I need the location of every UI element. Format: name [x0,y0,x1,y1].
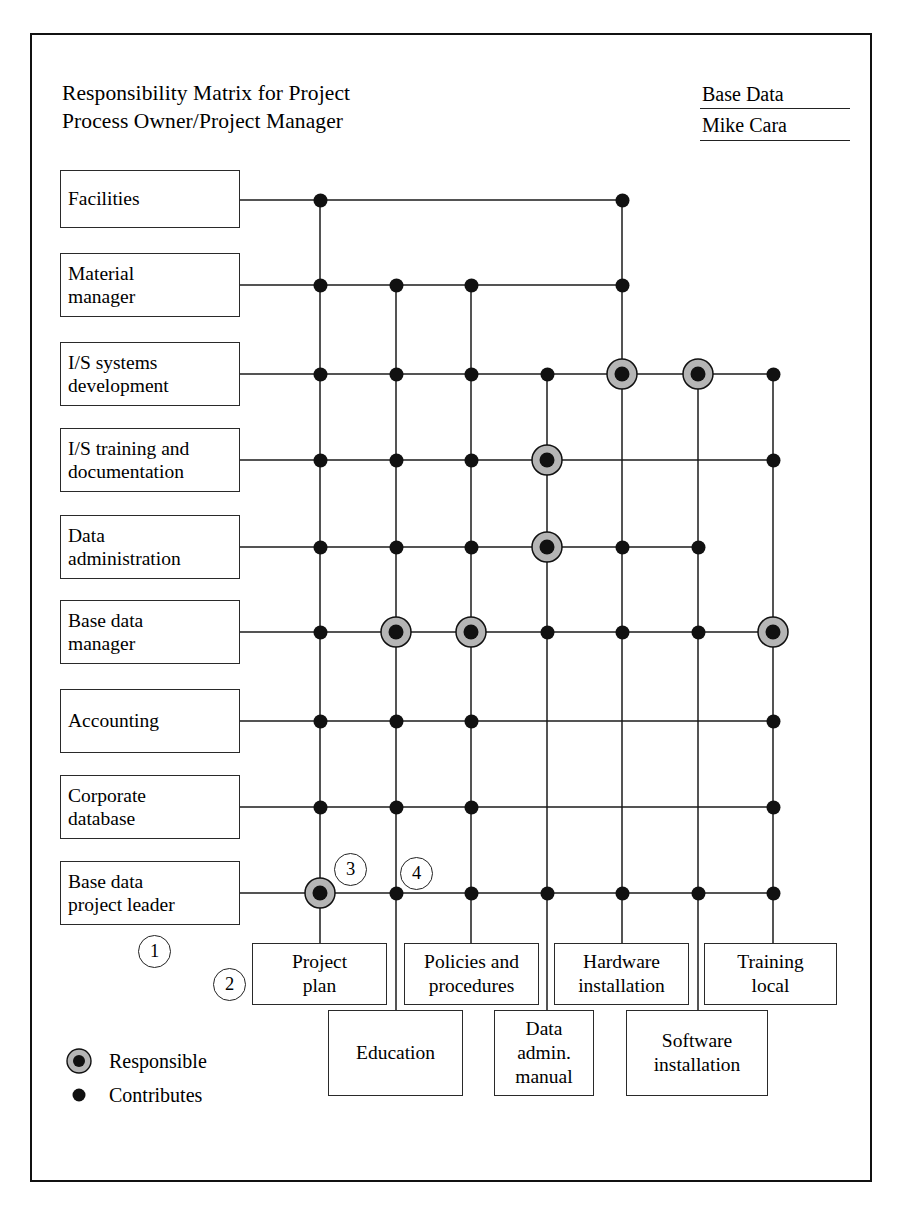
column-label-box[interactable]: Policies andprocedures [404,943,539,1005]
contributes-marker[interactable] [765,452,782,469]
title-line-2: Process Owner/Project Manager [62,108,492,136]
contributes-marker[interactable] [388,885,405,902]
contributes-marker[interactable] [690,539,707,556]
responsible-marker[interactable] [303,876,337,910]
title-line-1: Responsibility Matrix for Project [62,80,492,108]
diagram-canvas: Responsibility Matrix for Project Proces… [0,0,900,1213]
contributes-marker[interactable] [312,713,329,730]
row-label-box[interactable]: Base dataproject leader [60,861,240,925]
contributes-marker[interactable] [765,366,782,383]
row-label-text: Base datamanager [68,609,143,656]
column-label-text: Softwareinstallation [654,1029,741,1077]
row-label-box[interactable]: I/S systemsdevelopment [60,342,240,406]
contributes-marker[interactable] [463,539,480,556]
contributes-marker[interactable] [614,539,631,556]
contributes-marker[interactable] [388,539,405,556]
contributes-marker[interactable] [463,885,480,902]
contributes-marker[interactable] [312,192,329,209]
callout-number: 1 [150,941,159,962]
row-label-text: Base dataproject leader [68,870,175,917]
responsible-marker[interactable] [605,357,639,391]
contributes-marker[interactable] [388,452,405,469]
contributes-marker[interactable] [614,192,631,209]
header-field-value: Mike Cara [700,113,850,140]
contributes-marker[interactable] [312,366,329,383]
contributes-marker[interactable] [312,277,329,294]
contributes-marker[interactable] [312,452,329,469]
row-label-box[interactable]: Corporatedatabase [60,775,240,839]
contributes-marker[interactable] [388,799,405,816]
header-field-label: Base Data [700,82,850,109]
column-label-box[interactable]: Education [328,1010,463,1096]
contributes-marker[interactable] [312,624,329,641]
callout-number: 4 [412,863,421,884]
contributes-marker[interactable] [463,713,480,730]
row-label-text: Facilities [68,187,140,210]
contributes-marker[interactable] [614,885,631,902]
column-label-box[interactable]: Projectplan [252,943,387,1005]
responsible-marker[interactable] [681,357,715,391]
row-label-text: I/S training anddocumentation [68,437,189,484]
row-label-text: Accounting [68,709,159,732]
column-label-box[interactable]: Hardwareinstallation [554,943,689,1005]
contributes-marker[interactable] [463,277,480,294]
column-label-text: Hardwareinstallation [578,950,665,998]
responsible-icon [62,1046,96,1076]
column-label-text: Dataadmin.manual [515,1017,572,1088]
page-title: Responsibility Matrix for Project Proces… [62,80,492,135]
column-label-text: Projectplan [292,950,347,998]
column-label-text: Education [356,1041,435,1065]
contributes-marker[interactable] [388,366,405,383]
legend-label-contributes: Contributes [109,1084,202,1107]
contributes-marker[interactable] [614,277,631,294]
contributes-marker[interactable] [388,713,405,730]
row-label-box[interactable]: I/S training anddocumentation [60,428,240,492]
contributes-marker[interactable] [539,624,556,641]
row-label-text: Dataadministration [68,524,181,571]
callout-marker[interactable]: 1 [138,935,171,968]
contributes-marker[interactable] [463,366,480,383]
callout-marker[interactable]: 3 [334,853,367,886]
contributes-marker[interactable] [539,366,556,383]
header-fields: Base Data Mike Cara [700,82,850,145]
column-label-text: Traininglocal [737,950,803,998]
responsible-marker[interactable] [454,615,488,649]
responsible-marker[interactable] [379,615,413,649]
contributes-marker[interactable] [312,799,329,816]
contributes-marker[interactable] [614,624,631,641]
responsible-marker[interactable] [530,530,564,564]
contributes-marker[interactable] [765,799,782,816]
contributes-marker[interactable] [312,539,329,556]
contributes-marker[interactable] [765,713,782,730]
row-label-box[interactable]: Materialmanager [60,253,240,317]
column-label-box[interactable]: Softwareinstallation [626,1010,768,1096]
row-label-text: Corporatedatabase [68,784,146,831]
legend-item-responsible: Responsible [62,1044,207,1078]
row-label-box[interactable]: Base datamanager [60,600,240,664]
row-label-box[interactable]: Facilities [60,170,240,228]
contributes-marker[interactable] [765,885,782,902]
contributes-marker[interactable] [388,277,405,294]
contributes-marker[interactable] [690,624,707,641]
contributes-marker[interactable] [463,452,480,469]
contributes-marker[interactable] [539,885,556,902]
responsible-marker[interactable] [756,615,790,649]
legend-label-responsible: Responsible [109,1050,207,1073]
callout-marker[interactable]: 4 [400,857,433,890]
column-label-text: Policies andprocedures [424,950,519,998]
callout-number: 2 [225,974,234,995]
legend: Responsible Contributes [62,1044,207,1112]
responsible-marker[interactable] [530,443,564,477]
row-label-text: I/S systemsdevelopment [68,351,169,398]
contributes-marker[interactable] [463,799,480,816]
column-label-box[interactable]: Traininglocal [704,943,837,1005]
row-label-box[interactable]: Dataadministration [60,515,240,579]
column-label-box[interactable]: Dataadmin.manual [494,1010,594,1096]
contributes-marker[interactable] [690,885,707,902]
row-label-text: Materialmanager [68,262,135,309]
contributes-icon [62,1080,96,1110]
callout-marker[interactable]: 2 [213,968,246,1001]
callout-number: 3 [346,859,355,880]
legend-item-contributes: Contributes [62,1078,207,1112]
row-label-box[interactable]: Accounting [60,689,240,753]
